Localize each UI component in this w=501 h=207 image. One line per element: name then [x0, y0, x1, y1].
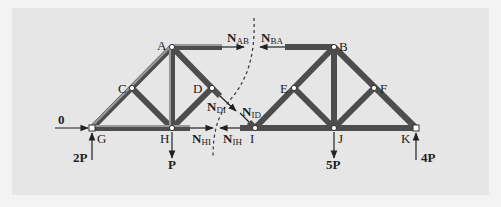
- member-AD: [172, 47, 212, 88]
- label-load-J: 5P: [326, 157, 341, 172]
- label-node-B: B: [339, 39, 348, 54]
- label-node-G: G: [97, 131, 106, 146]
- label-load-H: P: [168, 157, 176, 172]
- node-H: [169, 125, 174, 130]
- node-D: [209, 85, 214, 90]
- label-horizontal-G: 0: [58, 112, 65, 127]
- node-F: [371, 85, 376, 90]
- label-N-HI: NHI: [192, 131, 211, 147]
- label-node-H: H: [160, 131, 169, 146]
- label-node-F: F: [380, 81, 387, 96]
- node-G: [89, 125, 95, 131]
- label-N-DI: NDI: [207, 99, 226, 115]
- node-B: [331, 44, 336, 49]
- label-node-A: A: [157, 38, 167, 53]
- node-C: [129, 85, 134, 90]
- label-node-J: J: [338, 131, 343, 146]
- label-node-I: I: [250, 131, 254, 146]
- right-truss-section: [240, 47, 416, 128]
- member-DH: [172, 88, 212, 128]
- label-node-D: D: [193, 81, 202, 96]
- label-N-BA: NBA: [261, 30, 283, 46]
- truss-diagram: A B C D E F G H I J K NAB NBA NDI NID NH…: [0, 0, 501, 207]
- label-reaction-G: 2P: [73, 150, 88, 165]
- member-EJ: [294, 88, 334, 128]
- node-A: [169, 44, 174, 49]
- node-I: [252, 125, 257, 130]
- label-N-AB: NAB: [227, 30, 249, 46]
- member-FJ: [334, 88, 374, 128]
- member-CH: [132, 88, 172, 128]
- node-E: [291, 85, 296, 90]
- label-node-E: E: [280, 81, 288, 96]
- label-N-ID: NID: [242, 104, 261, 120]
- label-node-K: K: [401, 131, 411, 146]
- label-reaction-K: 4P: [421, 150, 436, 165]
- node-K: [413, 125, 419, 131]
- label-node-C: C: [118, 81, 127, 96]
- node-J: [331, 125, 336, 130]
- label-N-IH: NIH: [223, 131, 242, 147]
